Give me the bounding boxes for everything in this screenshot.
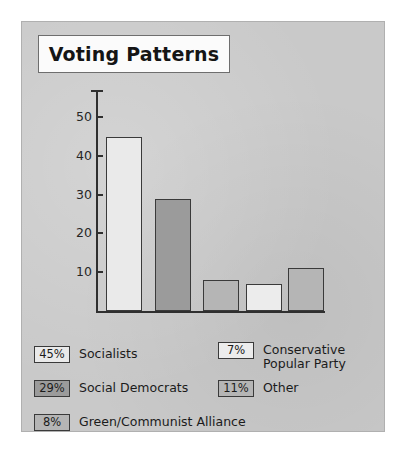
legend-label: Green/Communist Alliance	[79, 414, 246, 429]
figure-container: Voting Patterns 1020304050 45%Socialists…	[0, 0, 406, 457]
y-axis-tick-label: 10	[36, 264, 92, 278]
bar-green-communist-alliance	[203, 280, 239, 311]
bar-group	[98, 90, 326, 311]
chart-legend: 45%Socialists29%Social Democrats8%Green/…	[22, 322, 386, 430]
legend-item[interactable]: 7%Conservative Popular Party	[218, 342, 346, 370]
y-axis-tick-label: 20	[36, 225, 92, 239]
legend-swatch: 7%	[218, 342, 254, 359]
bar-other	[288, 268, 324, 311]
legend-percent: 11%	[223, 383, 249, 395]
legend-percent: 8%	[43, 417, 61, 429]
bar-socialists	[106, 137, 142, 311]
legend-item[interactable]: 29%Social Democrats	[34, 380, 188, 397]
legend-item[interactable]: 45%Socialists	[34, 346, 137, 363]
y-axis-tick-label: 30	[36, 187, 92, 201]
x-axis-line	[96, 311, 325, 313]
chart-panel: Voting Patterns 1020304050 45%Socialists…	[21, 21, 385, 432]
bar-social-democrats	[155, 199, 191, 311]
y-axis-tick-label: 50	[36, 109, 92, 123]
legend-item[interactable]: 11%Other	[218, 380, 299, 397]
y-axis-tick-label: 40	[36, 148, 92, 162]
y-axis-tick-label-text: 30	[64, 187, 92, 202]
y-axis-tick-label-text: 20	[64, 225, 92, 240]
legend-percent: 7%	[227, 345, 245, 357]
legend-percent: 29%	[39, 383, 65, 395]
legend-item[interactable]: 8%Green/Communist Alliance	[34, 414, 246, 431]
legend-label: Conservative Popular Party	[263, 342, 346, 370]
y-axis-tick-label-text: 10	[64, 264, 92, 279]
legend-swatch: 29%	[34, 380, 70, 397]
y-axis-tick-label-text: 50	[64, 109, 92, 124]
y-axis-tick-label-text: 40	[64, 148, 92, 163]
bar-conservative-popular-party	[246, 284, 282, 311]
legend-swatch: 8%	[34, 414, 70, 431]
legend-swatch: 45%	[34, 346, 70, 363]
legend-label: Other	[263, 380, 299, 395]
legend-percent: 45%	[39, 349, 65, 361]
legend-label: Socialists	[79, 346, 137, 361]
legend-swatch: 11%	[218, 380, 254, 397]
legend-label: Social Democrats	[79, 380, 188, 395]
